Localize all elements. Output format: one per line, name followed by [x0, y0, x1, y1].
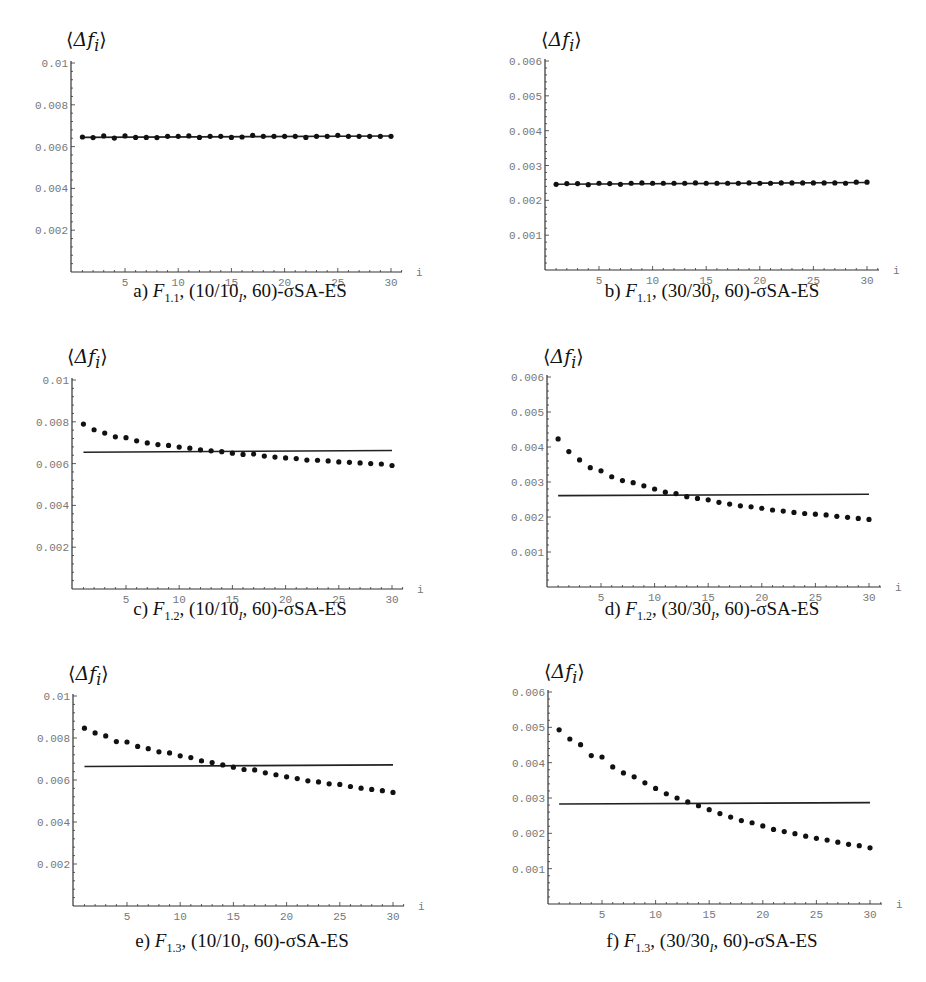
y-tick-label: 0.008	[37, 733, 70, 745]
data-point	[674, 795, 679, 800]
theory-line	[558, 494, 869, 495]
data-point	[567, 736, 572, 741]
data-point	[854, 180, 859, 185]
y-axis-label: ⟨Δfi⟩	[66, 28, 107, 55]
data-point	[336, 459, 341, 464]
data-point	[736, 181, 741, 186]
x-tick-label: 15	[227, 911, 240, 923]
data-point	[575, 181, 580, 186]
y-tick-label: 0.004	[35, 183, 68, 195]
data-point	[696, 803, 701, 808]
y-tick-label: 0.001	[512, 864, 545, 876]
y-tick-label: 0.01	[43, 375, 70, 387]
y-tick-label: 0.002	[512, 828, 545, 840]
y-tick-label: 0.008	[36, 417, 69, 429]
data-point	[198, 447, 203, 452]
y-tick-label: 0.001	[511, 547, 544, 559]
data-point	[304, 457, 309, 462]
panel-caption: b) F1.1, (30/30I, 60)-σSA-ES	[605, 280, 819, 306]
data-point	[188, 755, 193, 760]
data-point	[813, 512, 818, 517]
data-point	[564, 181, 569, 186]
x-tick-label: 15	[703, 909, 716, 921]
data-point	[707, 807, 712, 812]
data-point	[295, 776, 300, 781]
data-point	[240, 452, 245, 457]
data-point	[314, 134, 319, 139]
data-point	[390, 790, 395, 795]
data-point	[749, 820, 754, 825]
data-point	[642, 780, 647, 785]
data-point	[771, 827, 776, 832]
data-point	[90, 135, 95, 140]
data-point	[263, 770, 268, 775]
data-point	[369, 787, 374, 792]
data-point	[210, 760, 215, 765]
y-tick-label: 0.006	[36, 459, 69, 471]
data-point	[271, 134, 276, 139]
x-axis-label: i	[416, 267, 423, 279]
theory-line	[82, 136, 391, 137]
data-point	[112, 135, 117, 140]
data-point	[728, 814, 733, 819]
data-point	[347, 460, 352, 465]
data-point	[845, 515, 850, 520]
data-point	[814, 836, 819, 841]
data-point	[303, 135, 308, 140]
data-point	[824, 512, 829, 517]
data-point	[82, 726, 87, 731]
y-tick-label: 0.002	[509, 195, 542, 207]
data-point	[599, 754, 604, 759]
y-axis-label: ⟨Δfi⟩	[544, 660, 585, 687]
data-point	[589, 753, 594, 758]
data-point	[727, 501, 732, 506]
data-point	[671, 181, 676, 186]
data-point	[835, 840, 840, 845]
data-point	[209, 448, 214, 453]
data-point	[114, 739, 119, 744]
y-tick-label: 0.004	[36, 500, 69, 512]
data-point	[113, 434, 118, 439]
data-point	[272, 455, 277, 460]
y-tick-label: 0.008	[35, 100, 68, 112]
data-point	[620, 478, 625, 483]
data-point	[123, 435, 128, 440]
x-tick-label: 30	[384, 277, 397, 289]
data-point	[284, 774, 289, 779]
theory-line	[556, 183, 867, 185]
data-point	[577, 457, 582, 462]
data-point	[738, 503, 743, 508]
y-tick-label: 0.002	[511, 512, 544, 524]
y-tick-label: 0.005	[509, 91, 542, 103]
x-tick-label: 30	[860, 275, 873, 287]
data-point	[641, 483, 646, 488]
data-point	[325, 134, 330, 139]
data-point	[650, 181, 655, 186]
data-point	[629, 181, 634, 186]
chart-panel-a: 51015202530i0.0020.0040.0060.0080.01	[35, 58, 423, 289]
data-point	[327, 781, 332, 786]
data-point	[187, 446, 192, 451]
data-point	[792, 831, 797, 836]
y-tick-label: 0.002	[36, 542, 69, 554]
data-point	[251, 451, 256, 456]
panel-caption: d) F1.2, (30/30I, 60)-σSA-ES	[605, 598, 819, 624]
y-axis-label: ⟨Δfi⟩	[67, 345, 108, 372]
data-point	[133, 135, 138, 140]
data-point	[588, 465, 593, 470]
x-axis-label: i	[893, 265, 900, 277]
x-tick-label: 5	[598, 592, 605, 604]
x-tick-label: 20	[756, 909, 769, 921]
data-point	[846, 842, 851, 847]
data-point	[782, 829, 787, 834]
plots-canvas: 51015202530i0.0020.0040.0060.0080.015101…	[0, 0, 926, 982]
data-point	[760, 823, 765, 828]
data-point	[102, 430, 107, 435]
data-point	[80, 134, 85, 139]
data-point	[673, 491, 678, 496]
data-point	[746, 180, 751, 185]
data-point	[283, 455, 288, 460]
data-point	[607, 181, 612, 186]
x-axis-label: i	[417, 584, 424, 596]
data-point	[134, 438, 139, 443]
